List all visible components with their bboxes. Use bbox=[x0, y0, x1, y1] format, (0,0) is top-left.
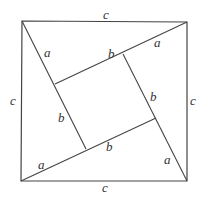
label-a-top-right: a bbox=[154, 35, 161, 50]
line-top-right-to-inner bbox=[55, 22, 187, 84]
pythagorean-diagram: cabacbcbbaac bbox=[0, 0, 205, 202]
label-b-inner-bottom: b bbox=[106, 139, 113, 154]
side-labels: cabacbcbbaac bbox=[10, 7, 196, 195]
label-c-right: c bbox=[190, 93, 196, 108]
label-b-inner-left: b bbox=[58, 110, 65, 125]
label-c-left: c bbox=[10, 93, 16, 108]
line-top-left-to-inner bbox=[22, 21, 86, 149]
label-a-bottom-right: a bbox=[164, 152, 171, 167]
label-a-bottom-left: a bbox=[38, 157, 45, 172]
label-c-bottom: c bbox=[102, 180, 108, 195]
label-a-top-left: a bbox=[44, 45, 51, 60]
label-c-top: c bbox=[103, 7, 109, 22]
line-bottom-right-to-inner bbox=[123, 54, 187, 181]
label-b-inner-right: b bbox=[150, 89, 157, 104]
label-b-inner-top: b bbox=[108, 46, 115, 61]
